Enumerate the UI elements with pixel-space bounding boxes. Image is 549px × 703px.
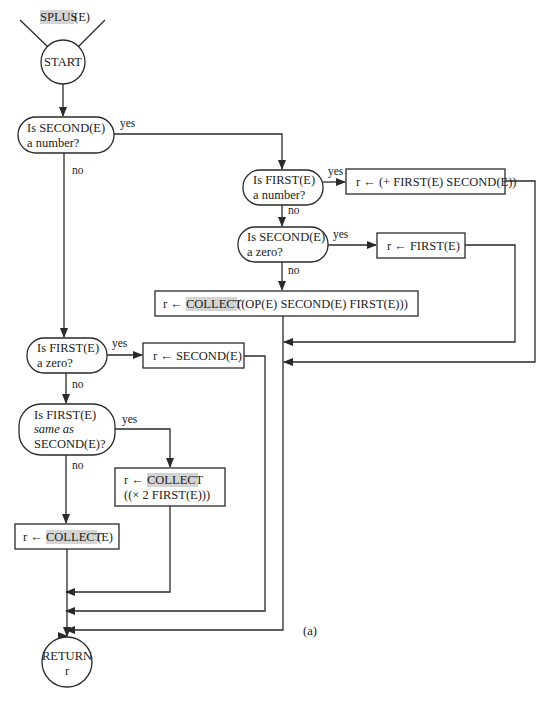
start-node: START (41, 40, 85, 84)
decision-second-zero-line2: a zero? (247, 245, 283, 259)
decision-second-number-line2: a number? (27, 136, 80, 150)
process-first-text: r ← FIRST(E) (387, 239, 460, 253)
edge-label-yes: yes (112, 337, 128, 350)
decision-second-number: Is SECOND(E) a number? (18, 117, 114, 153)
process-collect-times: r ← COLLECT ((× 2 FIRST(E))) (115, 468, 225, 506)
process-collect-op: r ← COLLECT ((OP(E) SECOND(E) FIRST(E))) (155, 291, 418, 316)
return-line1: RETURN (42, 649, 92, 663)
flowchart-svg: SPLUS (E) START Is SECOND(E) a number? y… (0, 0, 549, 703)
decision-first-zero-line1: Is FIRST(E) (37, 341, 99, 355)
flowchart-splus: SPLUS (E) START Is SECOND(E) a number? y… (0, 0, 549, 703)
process-collect-e-prefix: r ← (23, 530, 43, 544)
decision-first-number-line1: Is FIRST(E) (253, 173, 315, 187)
decision-first-zero: Is FIRST(E) a zero? (27, 338, 107, 373)
edge-label-no: no (288, 204, 300, 216)
process-collect-e: r ← COLLECT (E) (15, 524, 119, 549)
edge-label-no: no (72, 164, 84, 176)
edge-label-yes: yes (122, 413, 138, 426)
decision-same-line2: same as (34, 422, 74, 436)
process-collect-e-suffix: (E) (97, 530, 113, 544)
decision-first-zero-line2: a zero? (37, 356, 73, 370)
decision-second-number-line1: Is SECOND(E) (27, 121, 105, 135)
edge-label-yes: yes (328, 165, 344, 178)
decision-same-as: Is FIRST(E) same as SECOND(E)? (19, 404, 115, 455)
process-second-text: r ← SECOND(E) (153, 349, 242, 363)
decision-same-line1: Is FIRST(E) (34, 408, 96, 422)
figure-caption: (a) (303, 624, 317, 638)
process-second: r ← SECOND(E) (143, 343, 244, 368)
process-plus-text: r ← (+ FIRST(E) SECOND(E)) (356, 175, 517, 189)
process-collect-times-keyword: COLLECT (147, 473, 204, 487)
edge-label-no: no (72, 459, 84, 471)
process-collect-times-prefix: r ← (124, 473, 144, 487)
process-first: r ← FIRST(E) (377, 233, 465, 258)
decision-second-zero: Is SECOND(E) a zero? (238, 227, 328, 262)
edge-label-no: no (288, 264, 300, 276)
decision-first-number: Is FIRST(E) a number? (243, 170, 323, 205)
return-node: RETURN r (42, 637, 92, 687)
start-label: START (44, 55, 82, 69)
process-plus: r ← (+ FIRST(E) SECOND(E)) (346, 169, 517, 194)
process-collect-times-line2: ((× 2 FIRST(E))) (124, 488, 210, 502)
decision-second-zero-line1: Is SECOND(E) (247, 230, 325, 244)
process-collect-op-suffix: ((OP(E) SECOND(E) FIRST(E))) (237, 297, 408, 311)
process-collect-op-prefix: r ← (163, 297, 183, 311)
decision-same-line3: SECOND(E)? (34, 437, 106, 451)
decision-first-number-line2: a number? (253, 188, 306, 202)
process-collect-op-keyword: COLLECT (186, 297, 243, 311)
edge-label-yes: yes (333, 228, 349, 241)
edge-label-no: no (72, 378, 84, 390)
entry-label-rest: (E) (74, 10, 90, 24)
entry-label-highlight: SPLUS (40, 10, 78, 24)
edge-label-yes: yes (120, 117, 136, 130)
process-collect-e-keyword: COLLECT (46, 530, 103, 544)
